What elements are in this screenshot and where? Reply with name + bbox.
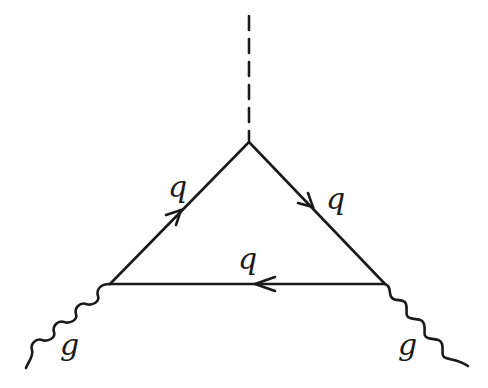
- feynman-diagram: q q q g g: [0, 0, 488, 388]
- label-gluon-right: g: [398, 330, 417, 360]
- label-quark-right: q: [326, 184, 345, 214]
- label-gluon-left: g: [60, 330, 79, 360]
- quark-line-right: [249, 142, 385, 284]
- label-quark-bottom: q: [238, 244, 257, 274]
- label-quark-left: q: [168, 172, 187, 202]
